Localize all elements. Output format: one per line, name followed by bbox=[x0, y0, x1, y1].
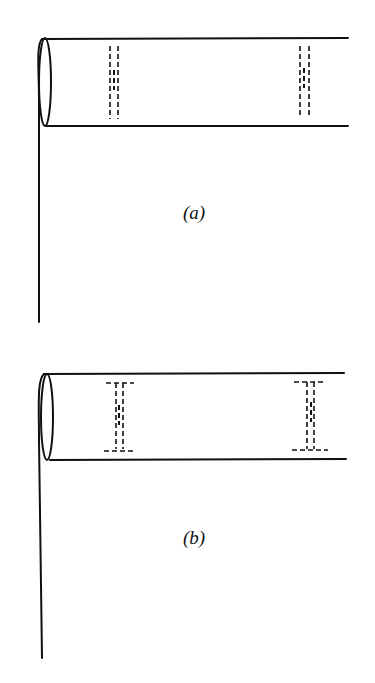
tube-top-edge bbox=[44, 373, 344, 374]
partition-b-2 bbox=[292, 382, 328, 450]
partition-b-1 bbox=[104, 383, 136, 451]
tube-opening-ellipse bbox=[39, 38, 51, 126]
tube-bottom-edge bbox=[50, 459, 346, 460]
tube-diagram-a bbox=[0, 0, 375, 340]
stem-line bbox=[38, 39, 42, 322]
tube-opening-ellipse bbox=[41, 374, 53, 460]
panel-label-b: (b) bbox=[154, 527, 234, 549]
partition-a-1 bbox=[110, 46, 118, 119]
panel-a: (a) bbox=[0, 0, 375, 340]
panel-label-a: (a) bbox=[154, 202, 234, 224]
panel-b: (b) bbox=[0, 340, 375, 683]
partition-a-2 bbox=[300, 46, 309, 117]
tube-top-edge bbox=[42, 38, 348, 39]
tube-diagram-b bbox=[0, 340, 375, 683]
